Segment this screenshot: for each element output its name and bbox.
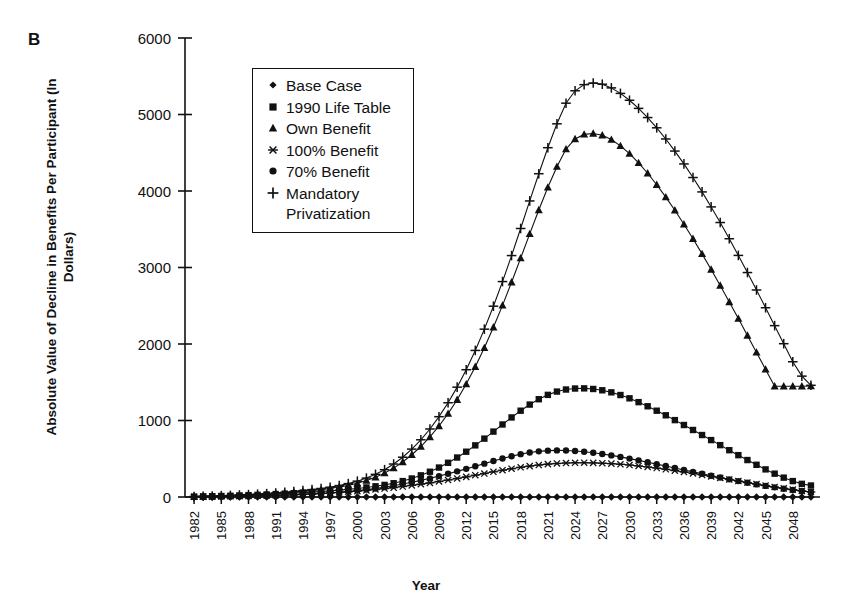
legend-item[interactable]: Base Case (262, 76, 401, 98)
square-marker (753, 462, 759, 468)
square-marker (472, 442, 478, 448)
legend-item[interactable]: 100% Benefit (262, 141, 401, 163)
triangle-marker (680, 220, 688, 227)
series-1990-life-table (191, 385, 814, 500)
square-marker (490, 428, 496, 434)
triangle-marker (444, 409, 452, 416)
diamond-marker (517, 493, 525, 501)
triangle-marker (716, 281, 724, 288)
square-marker (481, 435, 487, 441)
square-marker (790, 478, 796, 484)
x-tick-label: 2039 (704, 511, 719, 540)
diamond-marker (780, 493, 788, 501)
asterisk-marker (266, 143, 280, 157)
circle-marker (527, 449, 533, 455)
legend-item[interactable]: 1990 Life Table (262, 98, 401, 120)
diamond-marker (725, 493, 733, 501)
circle-marker (490, 458, 496, 464)
triangle-marker (589, 129, 597, 136)
diamond-marker (266, 78, 280, 92)
legend-label: Own Benefit (284, 119, 370, 139)
circle-marker (572, 448, 578, 454)
triangle-marker (571, 135, 579, 142)
circle-marker (808, 489, 814, 495)
diamond-marker (399, 493, 407, 501)
diamond-marker (608, 493, 616, 501)
triangle-marker (762, 365, 770, 372)
diamond-marker (490, 493, 498, 501)
square-marker (554, 388, 560, 394)
diamond-marker (499, 493, 507, 501)
legend-marker (262, 162, 284, 178)
circle-marker (790, 487, 796, 493)
circle-marker (608, 452, 614, 458)
square-marker (454, 454, 460, 460)
circle-marker (626, 455, 632, 461)
circle-marker (472, 463, 478, 469)
triangle-marker (489, 323, 497, 330)
triangle-marker (753, 348, 761, 355)
square-marker (427, 469, 433, 475)
triangle-marker (453, 395, 461, 402)
circle-marker (672, 465, 678, 471)
diamond-marker (617, 493, 625, 501)
x-tick-label: 2021 (541, 511, 556, 540)
legend-marker (262, 98, 284, 114)
circle-marker (599, 451, 605, 457)
circle-marker (726, 476, 732, 482)
plot-area: 0100020003000400050006000198219851988199… (0, 0, 852, 615)
diamond-marker (744, 493, 752, 501)
plus-marker (266, 186, 280, 200)
circle-marker (617, 454, 623, 460)
legend-marker (262, 184, 284, 200)
x-tick-label: 2012 (459, 511, 474, 540)
legend-marker (262, 141, 284, 157)
legend-item[interactable]: Mandatory Privatization (262, 184, 401, 224)
y-tick-label: 1000 (138, 412, 171, 429)
diamond-marker (381, 493, 389, 501)
x-tick-label: 2033 (650, 511, 665, 540)
circle-marker (708, 473, 714, 479)
triangle-marker (607, 135, 615, 142)
square-marker (762, 466, 768, 472)
diamond-marker (508, 493, 516, 501)
diamond-marker (626, 493, 634, 501)
square-marker (445, 460, 451, 466)
diamond-marker (653, 493, 661, 501)
circle-marker (744, 480, 750, 486)
square-marker (463, 449, 469, 455)
x-tick-label: 2045 (759, 511, 774, 540)
y-tick-label: 0 (163, 489, 171, 506)
circle-marker (644, 459, 650, 465)
legend-item[interactable]: Own Benefit (262, 119, 401, 141)
circle-marker (372, 485, 378, 491)
square-marker (608, 389, 614, 395)
legend-label: Mandatory Privatization (284, 184, 370, 224)
x-tick-label: 1997 (323, 511, 338, 540)
y-tick-label: 3000 (138, 259, 171, 276)
x-tick-label: 2000 (350, 511, 365, 540)
circle-marker (590, 450, 596, 456)
diamond-marker (526, 493, 534, 501)
square-marker (726, 447, 732, 453)
circle-marker (463, 466, 469, 472)
diamond-marker (444, 493, 452, 501)
legend-label: 70% Benefit (284, 162, 370, 182)
diamond-marker (553, 493, 561, 501)
diamond-marker (363, 493, 371, 501)
diamond-marker (680, 493, 688, 501)
triangle-marker (508, 278, 516, 285)
diamond-marker (471, 493, 479, 501)
diamond-marker (762, 493, 770, 501)
square-marker (663, 412, 669, 418)
diamond-marker (462, 493, 470, 501)
square-marker (699, 432, 705, 438)
square-marker (266, 100, 280, 114)
legend-item[interactable]: 70% Benefit (262, 162, 401, 184)
circle-marker (345, 488, 351, 494)
diamond-marker (753, 493, 761, 501)
diamond-marker (408, 493, 416, 501)
circle-marker (508, 453, 514, 459)
circle-marker (654, 461, 660, 467)
x-tick-label: 2006 (405, 511, 420, 540)
